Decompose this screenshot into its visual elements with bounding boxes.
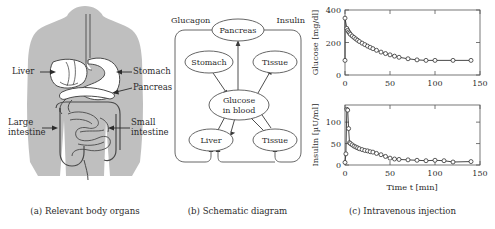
glucose-chart: 0 200 400 0 50 100 150 Glucose [mg [310,6,488,88]
data-point [384,52,388,56]
node-glucose-line1: Glucose [223,96,256,105]
data-point [469,160,473,164]
large-intestine-line2: intestine [8,127,46,137]
data-point [379,50,383,54]
data-point [379,153,383,157]
data-point [433,158,437,162]
node-stomach: Stomach [185,51,233,73]
insulin-ytick-0: 0 [336,161,341,170]
arrow-glucose-to-tissue-lower [251,118,265,132]
data-point [344,152,348,156]
insulin-branch-liver [218,150,238,162]
label-liver: Liver [12,67,34,77]
data-point [415,158,419,162]
node-tissue-upper: Tissue [253,51,297,73]
flow-label-glucagon: Glucagon [171,15,211,25]
insulin-ytick-100: 100 [326,118,341,127]
data-point [424,58,428,62]
node-glucose-in-blood: Glucose in blood [209,90,269,120]
node-liver-label: Liver [201,136,222,145]
caption-panel-b: (b) Schematic diagram [160,206,315,216]
insulin-xtick-100: 100 [427,169,442,178]
insulin-ytick-50: 50 [331,140,341,149]
insulin-xtick-0: 0 [342,169,347,178]
body-organs-illustration [0,0,170,200]
node-tissue-lower-label: Tissue [262,136,288,145]
node-glucose-line2: in blood [223,106,256,115]
data-point [451,160,455,164]
data-point [406,57,410,61]
data-point [375,48,379,52]
data-point [393,157,397,161]
glucose-xtick-150: 150 [472,79,487,88]
glucose-xtick-50: 50 [385,79,395,88]
large-intestine-line1: Large [8,117,33,127]
data-point [343,58,347,62]
data-point [451,58,455,62]
schematic-flow-diagram: Pancreas Stomach Tissue Glucose in blood… [163,0,313,200]
insulin-xtick-50: 50 [385,169,395,178]
data-point [393,54,397,58]
label-large-intestine: Large intestine [8,118,48,137]
node-pancreas-label: Pancreas [220,26,257,35]
data-point [424,159,428,163]
glucose-xtick-0: 0 [342,79,347,88]
data-point [406,158,410,162]
injection-timeseries-charts: 0 200 400 0 50 100 150 Glucose [mg [305,0,495,200]
insulin-chart: 0 50 100 0 50 100 150 Insulin [µU/ml] [310,104,488,192]
node-stomach-label: Stomach [191,58,227,67]
caption-panel-a: (a) Relevant body organs [0,206,170,216]
time-axis-title: Time t [min] [386,182,437,192]
small-intestine-line1: Small [131,117,155,127]
data-point [469,58,473,62]
data-point [397,157,401,161]
data-point [347,127,351,131]
glucose-ytick-400: 400 [326,6,341,15]
data-point [375,151,379,155]
caption-panel-c: (c) Intravenous injection [310,206,495,216]
data-point [343,160,347,164]
node-pancreas: Pancreas [212,19,264,41]
data-point [433,58,437,62]
glucose-y-axis-title: Glucose [mg/dl] [310,10,320,76]
data-point [343,16,347,20]
flow-label-insulin: Insulin [277,15,306,25]
node-tissue-lower: Tissue [253,129,297,151]
panel-intravenous-injection: 0 200 400 0 50 100 150 Glucose [mg [305,0,495,229]
liver-icon [50,59,87,88]
data-point [384,154,388,158]
data-point [415,58,419,62]
glucose-xtick-100: 100 [427,79,442,88]
data-point [442,159,446,163]
panel-body-organs: Liver Stomach Pancreas Large intestine S… [0,0,170,229]
insulin-plot-frame [345,105,480,165]
node-tissue-upper-label: Tissue [262,58,288,67]
data-point [388,53,392,57]
insulin-y-axis-title: Insulin [µU/ml] [310,104,320,167]
glucose-ytick-200: 200 [326,39,341,48]
arrow-stomach-to-glucose [211,70,226,92]
insulin-xtick-150: 150 [472,169,487,178]
data-point [346,108,350,112]
data-point [388,156,392,160]
panel-schematic-diagram: Pancreas Stomach Tissue Glucose in blood… [163,0,313,229]
arrow-glucose-to-tissue-upper [258,72,270,93]
data-point [397,55,401,59]
glucose-ytick-0: 0 [336,71,341,80]
node-liver: Liver [189,129,233,151]
